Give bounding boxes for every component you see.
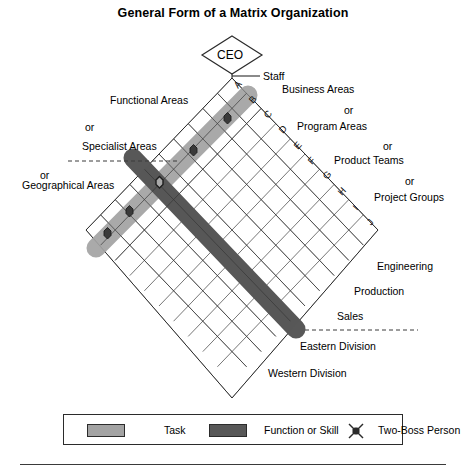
label-sales: Sales	[337, 311, 363, 322]
two-boss-person-marker	[156, 177, 163, 189]
legend-label-two-boss-person: Two-Boss Person	[378, 424, 460, 437]
matrix-organization-figure: A B C D E F G H I J	[0, 0, 466, 474]
label-or-5: or	[405, 176, 414, 187]
ceo-label: CEO	[217, 49, 243, 61]
label-geographical-areas: Geographical Areas	[22, 180, 114, 191]
label-specialist-areas: Specialist Areas	[82, 141, 157, 152]
legend-label-function-or-skill: Function or Skill	[264, 424, 339, 437]
label-engineering: Engineering	[377, 261, 433, 272]
label-production: Production	[354, 286, 404, 297]
label-western-division: Western Division	[268, 368, 347, 379]
label-or-4: or	[383, 141, 392, 152]
row-letter-D: D	[276, 123, 289, 136]
row-letter-H: H	[335, 185, 348, 198]
legend-swatch-function-or-skill	[209, 424, 247, 437]
footer-rule	[20, 464, 446, 465]
label-product-teams: Product Teams	[334, 155, 404, 166]
staff-label: Staff	[263, 71, 284, 82]
label-eastern-division: Eastern Division	[300, 341, 376, 352]
row-letter-E: E	[291, 139, 303, 151]
label-functional-areas: Functional Areas	[110, 95, 188, 106]
label-or-3: or	[344, 105, 353, 116]
legend-label-task: Task	[164, 424, 186, 437]
legend-swatch-task	[87, 424, 125, 437]
label-program-areas: Program Areas	[297, 121, 367, 132]
row-letter-G: G	[320, 168, 333, 181]
label-business-areas: Business Areas	[282, 84, 354, 95]
two-boss-person-icon	[346, 421, 366, 441]
label-or-1: or	[85, 122, 94, 133]
label-project-groups: Project Groups	[374, 192, 444, 203]
legend: Task Function or Skill Two-Boss Person	[63, 414, 403, 445]
row-letter-I: I	[350, 203, 360, 212]
diagram-page: General Form of a Matrix Organization	[0, 0, 466, 474]
row-letter-C: C	[261, 108, 274, 121]
